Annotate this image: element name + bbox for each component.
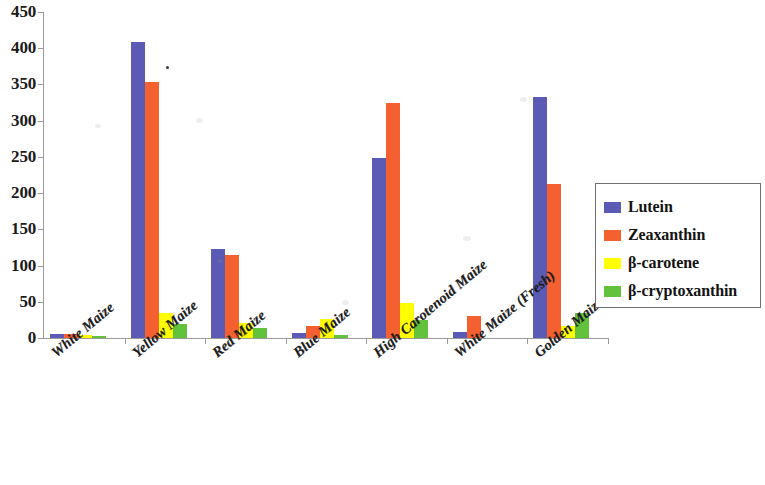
bar — [64, 334, 78, 338]
legend: LuteinZeaxanthinβ-caroteneβ-cryptoxanthi… — [595, 183, 761, 308]
bar — [414, 320, 428, 338]
y-axis-tick-label: 300 — [0, 112, 36, 129]
y-axis-tick-label: 400 — [0, 39, 36, 56]
y-axis-labels: 050100150200250300350400450 — [0, 0, 36, 485]
bar — [159, 313, 173, 338]
bar — [533, 97, 547, 338]
bar — [320, 319, 334, 338]
y-axis-tick-label: 450 — [0, 3, 36, 20]
bar — [467, 316, 481, 338]
bar — [173, 324, 187, 338]
bar — [575, 313, 589, 338]
legend-swatch-icon — [604, 230, 621, 241]
scan-artifact-smudge — [217, 259, 223, 263]
bar-group — [286, 12, 367, 338]
y-axis-tick-label: 350 — [0, 75, 36, 92]
scan-artifact-smudge — [342, 300, 349, 305]
x-axis-tick — [527, 338, 528, 344]
scan-artifact-smudge — [196, 118, 203, 123]
bar — [306, 326, 320, 338]
bar-group — [366, 12, 447, 338]
bar-chart: 050100150200250300350400450 White MaizeY… — [0, 0, 765, 485]
y-axis-tick-label: 100 — [0, 257, 36, 274]
y-axis-tick-label: 200 — [0, 184, 36, 201]
x-axis-tick — [125, 338, 126, 344]
bar — [561, 326, 575, 338]
bar-group — [44, 12, 125, 338]
x-axis-tick — [447, 338, 448, 344]
scan-artifact-dot — [166, 66, 169, 69]
legend-label: β-cryptoxanthin — [628, 282, 737, 300]
legend-swatch-icon — [604, 286, 621, 297]
bar — [453, 332, 467, 338]
legend-swatch-icon — [604, 258, 621, 269]
legend-item: Lutein — [604, 193, 760, 221]
y-axis-tick-label: 150 — [0, 220, 36, 237]
bar-group — [447, 12, 528, 338]
scan-artifact-smudge — [463, 236, 471, 241]
x-axis-tick — [608, 338, 609, 344]
bar — [386, 103, 400, 338]
bar — [239, 323, 253, 338]
x-axis-tick — [205, 338, 206, 344]
legend-label: Lutein — [628, 198, 673, 216]
legend-swatch-icon — [604, 202, 621, 213]
bar-group — [125, 12, 206, 338]
bar — [372, 158, 386, 338]
bar — [145, 82, 159, 338]
x-axis-tick — [286, 338, 287, 344]
y-axis-tick-label: 250 — [0, 148, 36, 165]
bar — [92, 336, 106, 338]
y-axis-tick-label: 0 — [0, 329, 36, 346]
bar — [400, 303, 414, 338]
bar — [78, 335, 92, 338]
legend-item: β-cryptoxanthin — [604, 277, 760, 305]
bar — [253, 328, 267, 338]
bar — [50, 334, 64, 338]
plot-area — [44, 12, 608, 338]
bar — [225, 255, 239, 338]
bar — [131, 42, 145, 338]
legend-item: β-carotene — [604, 249, 760, 277]
scan-artifact-smudge — [95, 124, 101, 128]
legend-item: Zeaxanthin — [604, 221, 760, 249]
scan-artifact-smudge — [520, 97, 527, 102]
x-axis-line — [43, 338, 609, 339]
legend-label: Zeaxanthin — [628, 226, 705, 244]
bar-group — [205, 12, 286, 338]
bar — [334, 335, 348, 338]
bar — [547, 184, 561, 338]
bar — [292, 333, 306, 338]
x-axis-tick — [366, 338, 367, 344]
legend-label: β-carotene — [628, 254, 699, 272]
y-axis-tick-label: 50 — [0, 293, 36, 310]
